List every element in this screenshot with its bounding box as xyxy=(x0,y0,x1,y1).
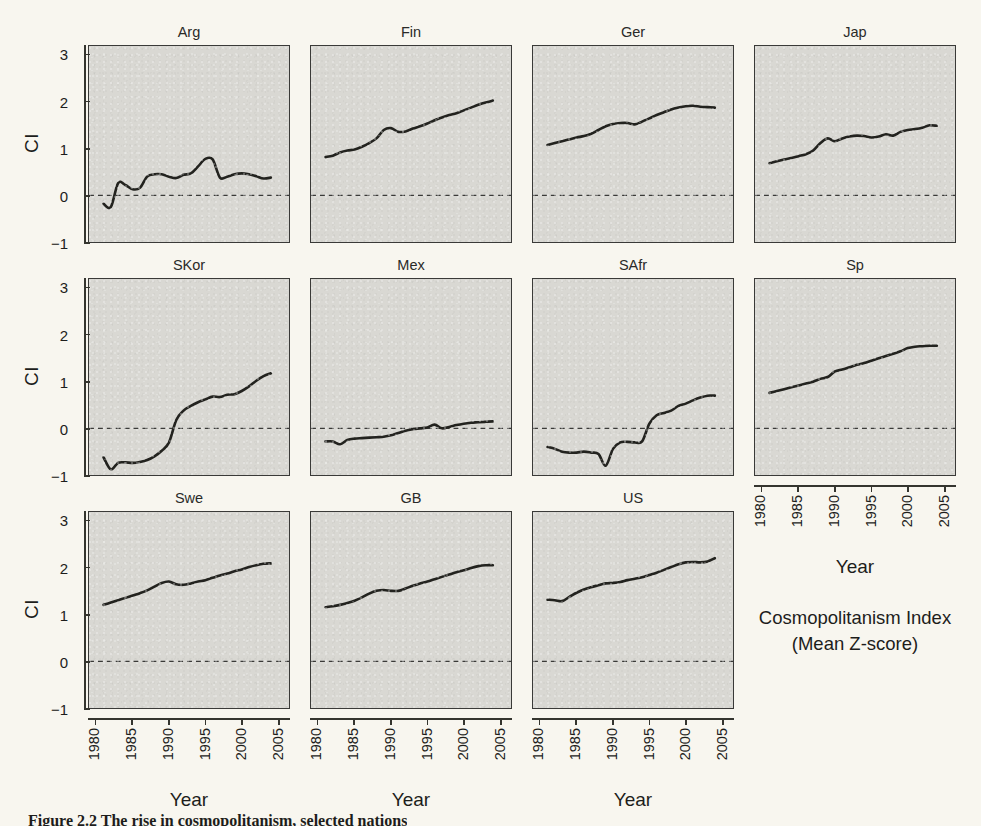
y-tick-label: 3 xyxy=(60,513,68,528)
series-line-jap xyxy=(770,125,937,163)
x-tick xyxy=(168,718,170,725)
x-tick xyxy=(317,718,319,725)
y-tick-label: 3 xyxy=(60,47,68,62)
x-tick xyxy=(761,485,763,492)
series-line-gb xyxy=(326,565,493,607)
x-axis-sp xyxy=(754,485,956,487)
panel-title-jap: Jap xyxy=(754,24,956,40)
panel-title-safr: SAfr xyxy=(532,257,734,273)
x-tick xyxy=(205,718,207,725)
x-tick-label: 1990 xyxy=(161,728,176,760)
series-line-skor xyxy=(104,373,271,469)
panel-title-mex: Mex xyxy=(310,257,512,273)
x-tick xyxy=(685,718,687,725)
x-tick xyxy=(722,718,724,725)
figure-caption: Figure 2.2 The rise in cosmopolitanism, … xyxy=(28,812,407,826)
series-line-swe xyxy=(104,563,271,605)
x-tick-label: 1985 xyxy=(124,728,139,760)
plot-panel-ger xyxy=(532,45,734,243)
x-tick-label: 1990 xyxy=(383,728,398,760)
x-tick xyxy=(907,485,909,492)
y-axis-row-2: 3210−1 xyxy=(72,278,88,476)
plot-panel-skor xyxy=(88,278,290,476)
y-axis-title-row-1: CI xyxy=(21,121,43,165)
y-axis-spine xyxy=(84,278,86,476)
y-tick xyxy=(84,428,90,430)
y-tick xyxy=(84,334,90,336)
y-tick-label: 2 xyxy=(60,94,68,109)
plot-panel-jap xyxy=(754,45,956,243)
plot-panel-safr xyxy=(532,278,734,476)
y-tick-label: 0 xyxy=(60,421,68,436)
y-tick-label: −1 xyxy=(51,236,68,251)
panel-title-ger: Ger xyxy=(532,24,734,40)
x-tick-label: 1980 xyxy=(753,495,768,527)
series-line-arg xyxy=(104,158,271,208)
y-tick-label: 3 xyxy=(60,280,68,295)
x-tick-label: 1980 xyxy=(309,728,324,760)
x-tick-label: 2000 xyxy=(456,728,471,760)
x-tick-label: 1995 xyxy=(642,728,657,760)
x-axis-title-us: Year xyxy=(532,789,734,811)
x-tick xyxy=(95,718,97,725)
y-tick xyxy=(84,381,90,383)
panel-title-arg: Arg xyxy=(88,24,290,40)
y-tick-label: 2 xyxy=(60,560,68,575)
x-tick xyxy=(278,718,280,725)
y-axis-row-1: 3210−1 xyxy=(72,45,88,243)
y-axis-row-3: 3210−1 xyxy=(72,511,88,709)
x-tick-label: 2000 xyxy=(678,728,693,760)
x-axis-gb xyxy=(310,718,512,720)
x-tick-label: 2000 xyxy=(234,728,249,760)
y-tick xyxy=(84,567,90,569)
x-tick xyxy=(612,718,614,725)
x-tick xyxy=(241,718,243,725)
plot-panel-swe xyxy=(88,511,290,709)
x-tick-label: 1985 xyxy=(346,728,361,760)
series-line-ger xyxy=(548,106,715,145)
series-line-sp xyxy=(770,346,937,393)
panel-title-fin: Fin xyxy=(310,24,512,40)
x-tick-label: 1980 xyxy=(87,728,102,760)
y-tick-label: 1 xyxy=(60,607,68,622)
plot-panel-us xyxy=(532,511,734,709)
panel-title-gb: GB xyxy=(310,490,512,506)
x-axis-title-swe: Year xyxy=(88,789,290,811)
x-axis-us xyxy=(532,718,734,720)
y-tick xyxy=(84,475,90,477)
y-tick xyxy=(84,54,90,56)
y-tick xyxy=(84,614,90,616)
plot-panel-arg xyxy=(88,45,290,243)
x-tick-label: 2005 xyxy=(715,728,730,760)
panel-title-sp: Sp xyxy=(754,257,956,273)
plot-panel-fin xyxy=(310,45,512,243)
series-line-mex xyxy=(326,421,493,444)
y-tick-label: 1 xyxy=(60,141,68,156)
x-tick-label: 1980 xyxy=(531,728,546,760)
x-tick-label: 2000 xyxy=(900,495,915,527)
y-axis-title-row-3: CI xyxy=(21,587,43,631)
x-tick xyxy=(539,718,541,725)
panel-title-skor: SKor xyxy=(88,257,290,273)
plot-panel-gb xyxy=(310,511,512,709)
plot-panel-sp xyxy=(754,278,956,476)
x-tick-label: 2005 xyxy=(493,728,508,760)
x-tick-label: 2005 xyxy=(937,495,952,527)
x-axis-title-sp: Year xyxy=(754,556,956,578)
plot-panel-mex xyxy=(310,278,512,476)
y-tick-label: −1 xyxy=(51,469,68,484)
x-tick xyxy=(463,718,465,725)
x-tick xyxy=(834,485,836,492)
x-tick-label: 1995 xyxy=(198,728,213,760)
x-tick xyxy=(500,718,502,725)
x-tick xyxy=(649,718,651,725)
x-tick-label: 1985 xyxy=(568,728,583,760)
y-tick-label: 0 xyxy=(60,654,68,669)
y-tick-label: 1 xyxy=(60,374,68,389)
x-axis-title-gb: Year xyxy=(310,789,512,811)
x-tick xyxy=(944,485,946,492)
x-tick-label: 1990 xyxy=(827,495,842,527)
x-tick xyxy=(575,718,577,725)
panel-title-swe: Swe xyxy=(88,490,290,506)
series-line-fin xyxy=(326,101,493,157)
